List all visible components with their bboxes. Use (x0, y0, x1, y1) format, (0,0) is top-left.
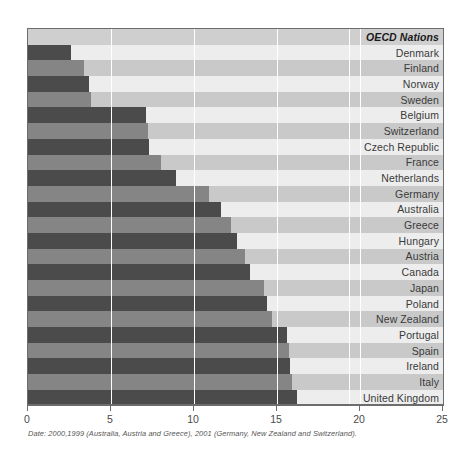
bar-row: Netherlands (28, 170, 443, 186)
category-label-belgium: Belgium (349, 107, 443, 123)
bar-row: Canada (28, 264, 443, 280)
bar-row: Norway (28, 76, 443, 92)
bar-row: Czech Republic (28, 139, 443, 155)
bar-australia (28, 202, 221, 218)
bar-row: Poland (28, 296, 443, 312)
bar-row: Australia (28, 202, 443, 218)
bar-row: New Zealand (28, 311, 443, 327)
header-label: OECD Nations (349, 29, 443, 45)
header-row: OECD Nations (28, 29, 443, 45)
bar-sweden (28, 92, 91, 108)
bar-rows: OECD NationsDenmarkFinlandNorwaySwedenBe… (28, 29, 443, 405)
bar-new-zealand (28, 311, 272, 327)
category-label-ireland: Ireland (349, 358, 443, 374)
category-label-austria: Austria (349, 249, 443, 265)
x-axis-ticks: 0510152025 (27, 405, 444, 427)
bar-denmark (28, 45, 71, 61)
bar-canada (28, 264, 250, 280)
gridline-15 (277, 29, 278, 404)
category-label-australia: Australia (349, 202, 443, 218)
category-label-denmark: Denmark (349, 45, 443, 61)
category-label-czech-republic: Czech Republic (349, 139, 443, 155)
tick-label-5: 5 (107, 413, 113, 425)
category-label-poland: Poland (349, 296, 443, 312)
bar-norway (28, 76, 89, 92)
plot-area: OECD NationsDenmarkFinlandNorwaySwedenBe… (27, 28, 444, 405)
category-label-hungary: Hungary (349, 233, 443, 249)
bar-row: Japan (28, 280, 443, 296)
bar-switzerland (28, 123, 148, 139)
bar-row: Denmark (28, 45, 443, 61)
tick-label-25: 25 (436, 413, 448, 425)
category-label-finland: Finland (349, 60, 443, 76)
bar-spain (28, 343, 289, 359)
bar-row: Sweden (28, 92, 443, 108)
tick-15 (276, 405, 277, 411)
category-label-united-kingdom: United Kingdom (349, 390, 443, 405)
category-label-switzerland: Switzerland (349, 123, 443, 139)
category-label-sweden: Sweden (349, 92, 443, 108)
gridline-10 (194, 29, 195, 404)
bar-netherlands (28, 170, 176, 186)
bar-greece (28, 217, 231, 233)
tick-25 (442, 405, 443, 411)
category-label-japan: Japan (349, 280, 443, 296)
chart-figure: OECD NationsDenmarkFinlandNorwaySwedenBe… (0, 0, 469, 458)
bar-austria (28, 249, 245, 265)
category-label-norway: Norway (349, 76, 443, 92)
bar-row: Switzerland (28, 123, 443, 139)
bar-row: Greece (28, 217, 443, 233)
tick-label-15: 15 (270, 413, 282, 425)
bar-row: France (28, 155, 443, 171)
bar-hungary (28, 233, 237, 249)
bar-ireland (28, 358, 290, 374)
bar-japan (28, 280, 264, 296)
gridline-5 (111, 29, 112, 404)
category-label-italy: Italy (349, 374, 443, 390)
bar-row: Spain (28, 343, 443, 359)
category-label-germany: Germany (349, 186, 443, 202)
bar-row: United Kingdom (28, 390, 443, 405)
tick-0 (27, 405, 28, 411)
bar-row: Hungary (28, 233, 443, 249)
bar-row: Germany (28, 186, 443, 202)
gridline-20 (360, 29, 361, 404)
bar-germany (28, 186, 209, 202)
bar-row: Finland (28, 60, 443, 76)
category-label-portugal: Portugal (349, 327, 443, 343)
category-label-netherlands: Netherlands (349, 170, 443, 186)
category-label-spain: Spain (349, 343, 443, 359)
tick-10 (193, 405, 194, 411)
tick-20 (359, 405, 360, 411)
bar-row: Austria (28, 249, 443, 265)
bar-italy (28, 374, 292, 390)
category-label-canada: Canada (349, 264, 443, 280)
bar-united-kingdom (28, 390, 297, 405)
bar-row: Portugal (28, 327, 443, 343)
category-label-greece: Greece (349, 217, 443, 233)
bar-row: Belgium (28, 107, 443, 123)
bar-france (28, 155, 161, 171)
bar-portugal (28, 327, 287, 343)
bar-belgium (28, 107, 146, 123)
bar-row: Ireland (28, 358, 443, 374)
bar-row: Italy (28, 374, 443, 390)
chart-footnote: Date: 2000,1999 (Australia, Austria and … (28, 429, 357, 438)
tick-label-0: 0 (24, 413, 30, 425)
bar-finland (28, 60, 84, 76)
bar-czech-republic (28, 139, 149, 155)
category-label-france: France (349, 155, 443, 171)
bar-poland (28, 296, 267, 312)
tick-5 (110, 405, 111, 411)
category-label-new-zealand: New Zealand (349, 311, 443, 327)
tick-label-10: 10 (187, 413, 199, 425)
tick-label-20: 20 (353, 413, 365, 425)
